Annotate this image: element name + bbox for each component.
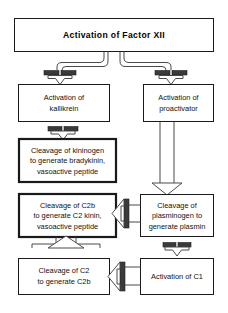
node-plasminogen-label-line2: plasminogen to [152, 211, 202, 220]
node-kininogen: Cleavage of kininogen to generate bradyk… [19, 139, 116, 182]
node-kallikrein-label-line2: kallikrein [50, 104, 79, 113]
node-kallikrein-label-line1: Activation of [44, 93, 85, 102]
edge-plasminogen-c1-bar-left [163, 243, 176, 248]
node-kininogen-label-line2: to generate bradykinin, [30, 156, 105, 165]
edge-c1-cleavagec2-bar [120, 262, 125, 291]
edge-xii-kallikrein-bar-left [44, 71, 59, 76]
edge-xii-proactivator-bar-right [172, 71, 187, 76]
node-proactivator-label-line2: proactivator [159, 104, 198, 113]
node-c2b-kinin-label-line3: vasoactive peptide [37, 222, 98, 231]
node-plasminogen: Cleavage of plasminogen to generate plas… [141, 195, 214, 237]
edge-proactivator-plasminogen-arrowhead [152, 183, 182, 195]
flowchart-canvas: Activation of Factor XII Activation of k… [0, 0, 228, 313]
node-activation-c1: Activation of C1 [141, 259, 214, 295]
edge-plasminogen-c1-bar-right [178, 243, 191, 248]
flowchart-diagram: Activation of Factor XII Activation of k… [0, 0, 228, 313]
edge-xii-kallikrein-arrowhead [48, 76, 72, 85]
node-c2b-kinin: Cleavage of C2b to generate C2 kinin, va… [19, 194, 116, 237]
edge-xii-kallikrein-bar-right [61, 71, 76, 76]
edge-plasminogen-c2bkinin-bar [124, 199, 129, 228]
edge-xii-kallikrein [44, 52, 108, 85]
node-cleavage-c2: Cleavage of C2 to generate C2b [19, 259, 110, 295]
edge-xii-proactivator [120, 52, 187, 85]
edge-xii-proactivator-bar-left [155, 71, 170, 76]
edge-xii-proactivator-line2 [120, 52, 166, 72]
node-cleavage-c2-label-line2: to generate C2b [37, 277, 90, 286]
node-kininogen-label-line1: Cleavage of kininogen [31, 146, 104, 155]
node-cleavage-c2-label-line1: Cleavage of C2 [39, 266, 90, 275]
edge-plasminogen-c1 [163, 243, 191, 257]
edge-proactivator-plasminogen [152, 122, 182, 196]
node-proactivator-label-line1: Activation of [158, 93, 199, 102]
node-kininogen-label-line3: vasoactive peptide [37, 167, 98, 176]
edge-kallikrein-kininogen-bar-left [48, 127, 62, 132]
edge-plasminogen-c1-arrowhead [165, 247, 189, 256]
node-factor-xii-label: Activation of Factor XII [63, 30, 165, 40]
node-factor-xii: Activation of Factor XII [15, 19, 214, 52]
edge-kallikrein-kininogen-bar-right [64, 127, 78, 132]
node-kallikrein: Activation of kallikrein [19, 85, 110, 122]
edge-xii-kallikrein-line2 [62, 52, 108, 72]
edge-xii-proactivator-arrowhead [159, 76, 183, 85]
node-activation-c1-label: Activation of C1 [151, 272, 203, 281]
node-c2b-kinin-label-line2: to generate C2 kinin, [33, 211, 101, 220]
node-proactivator: Activation of proactivator [144, 85, 214, 122]
edge-c1-cleavagec2 [108, 262, 141, 291]
node-plasminogen-label-line3: generate plasmin [149, 222, 206, 231]
node-c2b-kinin-label-line1: Cleavage of C2b [40, 201, 95, 210]
node-plasminogen-label-line1: Cleavage of [157, 201, 197, 210]
